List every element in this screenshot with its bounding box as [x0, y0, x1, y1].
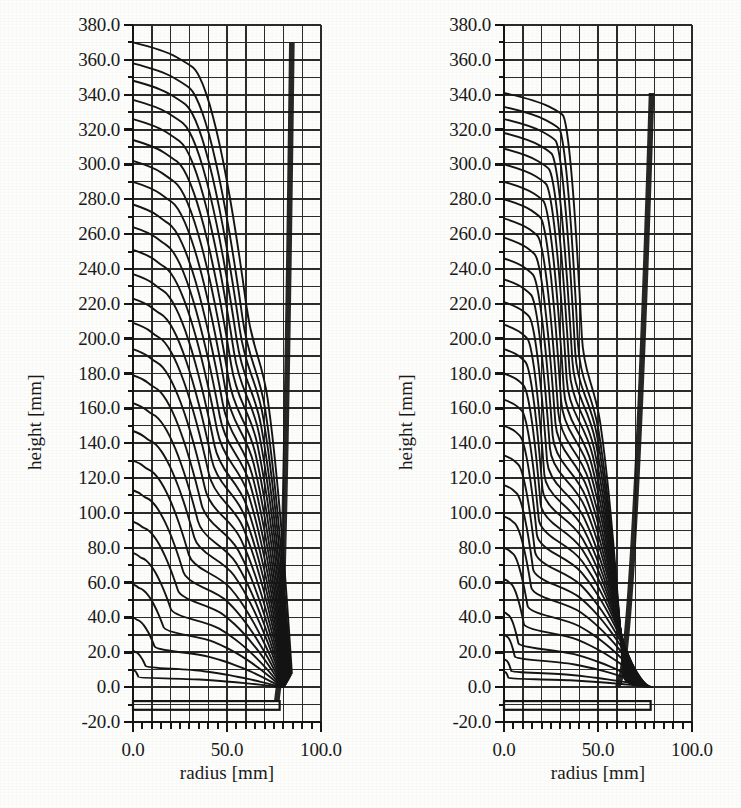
y-axis-tick-label: 200.0 [78, 329, 120, 348]
y-axis-tick-label: 120.0 [449, 468, 491, 487]
y-axis-title-right: height [mm] [395, 374, 417, 470]
figure-two-panel-mesh-plot: -20.00.020.040.060.080.0100.0120.0140.01… [0, 0, 741, 808]
x-axis-tick-label: 50.0 [182, 740, 272, 759]
grid-lines [504, 25, 692, 722]
y-axis-tick-label: 40.0 [459, 607, 491, 626]
x-axis-tick-label: 0.0 [88, 740, 178, 759]
x-axis-title-left: radius [mm] [73, 762, 381, 784]
y-axis-tick-label: 320.0 [78, 120, 120, 139]
y-axis-tick-label: 360.0 [78, 50, 120, 69]
y-axis-tick-label: 340.0 [449, 85, 491, 104]
y-axis-tick-label: 320.0 [449, 120, 491, 139]
y-axis-tick-label: 140.0 [449, 433, 491, 452]
y-axis-title-left: height [mm] [24, 374, 46, 470]
y-axis-tick-label: 0.0 [468, 677, 491, 696]
chart-panel-left: -20.00.020.040.060.080.0100.0120.0140.01… [0, 0, 370, 808]
y-axis-tick-label: 100.0 [78, 503, 120, 522]
y-axis-tick-label: 200.0 [449, 329, 491, 348]
y-axis-tick-label: 220.0 [449, 294, 491, 313]
y-axis-tick-label: 260.0 [449, 224, 491, 243]
y-axis-tick-label: 160.0 [449, 398, 491, 417]
y-axis-tick-label: 180.0 [78, 364, 120, 383]
flow-line [133, 250, 286, 684]
y-axis-tick-label: 40.0 [88, 607, 120, 626]
y-axis-tick-label: 380.0 [449, 15, 491, 34]
y-axis-tick-label: 60.0 [88, 573, 120, 592]
y-axis-tick-label: 360.0 [449, 50, 491, 69]
plot-canvas-right [371, 0, 741, 808]
chart-panel-right: -20.00.020.040.060.080.0100.0120.0140.01… [371, 0, 741, 808]
x-axis-tick-label: 100.0 [276, 740, 366, 759]
y-axis-tick-label: -20.0 [452, 712, 491, 731]
x-axis-tick-label: 100.0 [647, 740, 737, 759]
y-axis-tick-label: 20.0 [88, 642, 120, 661]
y-axis-tick-label: 280.0 [78, 189, 120, 208]
flow-line-curves [133, 42, 295, 709]
y-axis-tick-label: 280.0 [449, 189, 491, 208]
y-axis-tick-label: 260.0 [78, 224, 120, 243]
y-axis-tick-label: 300.0 [449, 154, 491, 173]
y-axis-tick-label: 60.0 [459, 573, 491, 592]
y-axis-tick-label: 80.0 [88, 538, 120, 557]
plot-canvas-left [0, 0, 370, 808]
y-axis-tick-label: 0.0 [97, 677, 120, 696]
y-axis-tick-label: 240.0 [449, 259, 491, 278]
y-axis-tick-label: 80.0 [459, 538, 491, 557]
y-axis-tick-label: 100.0 [449, 503, 491, 522]
y-axis-tick-label: 220.0 [78, 294, 120, 313]
y-axis-tick-label: -20.0 [81, 712, 120, 731]
y-axis-tick-label: 140.0 [78, 433, 120, 452]
y-axis-tick-label: 120.0 [78, 468, 120, 487]
x-axis-tick-label: 50.0 [553, 740, 643, 759]
y-axis-tick-label: 180.0 [449, 364, 491, 383]
flow-line [504, 426, 641, 686]
y-axis-tick-label: 340.0 [78, 85, 120, 104]
y-axis-tick-label: 380.0 [78, 15, 120, 34]
y-axis-tick-label: 20.0 [459, 642, 491, 661]
x-axis-title-right: radius [mm] [444, 762, 741, 784]
y-axis-tick-label: 240.0 [78, 259, 120, 278]
y-axis-tick-label: 160.0 [78, 398, 120, 417]
x-axis-tick-label: 0.0 [459, 740, 549, 759]
y-axis-tick-label: 300.0 [78, 154, 120, 173]
